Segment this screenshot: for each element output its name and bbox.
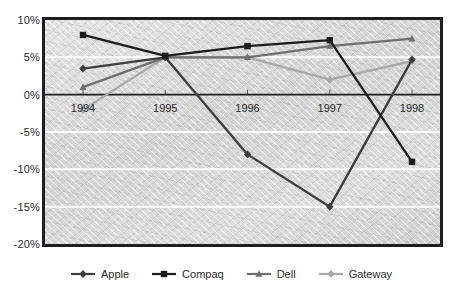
x-axis-tick-label: 1995 xyxy=(153,102,177,114)
data-point-marker xyxy=(327,270,334,278)
legend-item-compaq[interactable]: Compaq xyxy=(151,268,224,280)
chart-legend: AppleCompaqDellGateway xyxy=(0,268,462,280)
legend-item-gateway[interactable]: Gateway xyxy=(318,268,392,280)
legend-item-dell[interactable]: Dell xyxy=(246,268,296,280)
x-axis-tick-label: 1997 xyxy=(318,102,342,114)
x-axis-tick-label: 1998 xyxy=(400,102,424,114)
legend-marker-icon xyxy=(318,268,344,280)
legend-item-label: Apple xyxy=(101,268,129,280)
data-point-marker xyxy=(79,270,86,278)
legend-marker-icon xyxy=(70,268,96,280)
legend-item-label: Gateway xyxy=(349,268,392,280)
legend-item-label: Dell xyxy=(277,268,296,280)
legend-item-apple[interactable]: Apple xyxy=(70,268,129,280)
x-axis-tick-label: 1994 xyxy=(71,102,95,114)
x-axis-tick-label: 1996 xyxy=(235,102,259,114)
legend-marker-icon xyxy=(151,268,177,280)
legend-marker-icon xyxy=(246,268,272,280)
chart-container: 10%5%0%-5%-10%-15%-20% 19941995199619971… xyxy=(0,0,462,292)
data-point-marker xyxy=(161,271,167,277)
x-axis: 19941995199619971998 xyxy=(0,0,462,292)
legend-item-label: Compaq xyxy=(182,268,224,280)
